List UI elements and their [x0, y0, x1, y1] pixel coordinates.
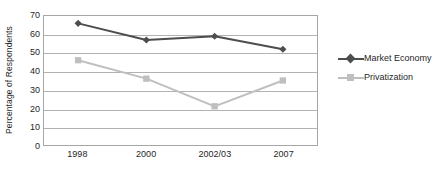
y-axis-tick-label: 30 [18, 85, 40, 94]
x-axis-tick-label: 2002/03 [199, 150, 232, 159]
chart-figure: Percentage of Respondents 01020304050607… [0, 0, 442, 173]
legend-item-market-economy: Market Economy [338, 49, 442, 68]
diamond-marker-icon [279, 46, 286, 53]
y-axis-tick-label: 70 [18, 11, 40, 20]
diamond-marker-icon [75, 20, 82, 27]
diamond-marker-icon [346, 53, 356, 63]
square-marker-icon [75, 57, 81, 63]
legend-swatch-market-economy [338, 53, 364, 65]
y-axis-tick-labels: 010203040506070 [16, 0, 40, 173]
x-axis-tick-labels: 199820002002/032007 [43, 150, 318, 170]
legend-label-privatization: Privatization [364, 73, 413, 82]
square-marker-icon [347, 74, 354, 81]
diamond-marker-icon [143, 36, 150, 43]
legend-label-market-economy: Market Economy [364, 54, 432, 63]
legend-item-privatization: Privatization [338, 68, 442, 87]
y-axis-tick-label: 40 [18, 67, 40, 76]
series-layer [44, 16, 317, 145]
y-axis-tick-label: 10 [18, 123, 40, 132]
y-axis-tick-label: 20 [18, 104, 40, 113]
y-axis-tick-label: 0 [18, 142, 40, 151]
x-axis-tick-label: 1998 [67, 150, 87, 159]
y-axis-title-text: Percentage of Respondents [4, 26, 14, 134]
x-axis-tick-label: 2007 [274, 150, 294, 159]
square-marker-icon [143, 76, 149, 82]
x-axis-tick-label: 2000 [136, 150, 156, 159]
square-marker-icon [280, 77, 286, 83]
y-axis-tick-label: 50 [18, 48, 40, 57]
series-line-market-economy [78, 23, 283, 49]
series-line-privatization [78, 60, 283, 106]
gridline [44, 147, 317, 148]
y-axis-tick-label: 60 [18, 29, 40, 38]
square-marker-icon [211, 103, 217, 109]
chart-legend: Market Economy Privatization [338, 49, 442, 87]
legend-swatch-privatization [338, 72, 364, 84]
diamond-marker-icon [211, 33, 218, 40]
plot-area [43, 15, 318, 146]
